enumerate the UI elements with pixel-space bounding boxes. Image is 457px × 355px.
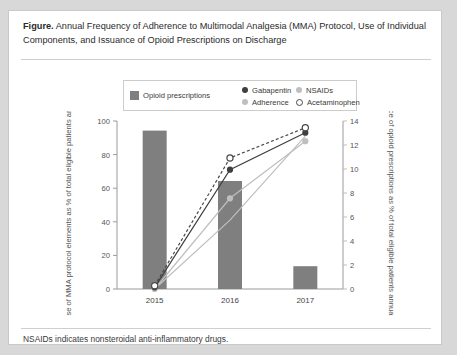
- x-tick-label: 2015: [146, 296, 164, 305]
- filled-dark-circle-icon: [242, 87, 248, 93]
- right-tick-label: 0: [350, 285, 354, 294]
- left-tick-label: 80: [102, 151, 110, 160]
- marker-adherence: [227, 195, 233, 201]
- chart-legend: Opioid prescriptions Gabapentin Adherenc…: [123, 80, 357, 111]
- legend-label: Opioid prescriptions: [143, 91, 210, 100]
- right-axis-title: Issuance of opioid prescriptions as % of…: [387, 111, 396, 316]
- left-tick-label: 0: [106, 285, 110, 294]
- marker-adherence: [302, 138, 308, 144]
- right-tick-label: 10: [350, 165, 358, 174]
- left-tick-label: 40: [102, 218, 110, 227]
- right-tick-label: 6: [350, 213, 354, 222]
- x-tick-label: 2016: [221, 296, 239, 305]
- left-tick-label: 60: [102, 184, 110, 193]
- left-tick-label: 20: [102, 251, 110, 260]
- chart-area: 02040608010002468101214Use of MMA protoc…: [9, 111, 443, 316]
- legend-item-acetaminophen: Acetaminophen: [296, 96, 360, 108]
- legend-item-adherence: Adherence: [242, 96, 291, 108]
- figure-footnote: NSAIDs indicates nonsteroidal anti-infla…: [23, 333, 431, 345]
- legend-item-opioid-prescriptions: Opioid prescriptions: [130, 89, 210, 101]
- legend-label: Gabapentin: [252, 86, 291, 95]
- dual-axis-chart: 02040608010002468101214Use of MMA protoc…: [9, 111, 443, 316]
- bar-2017: [293, 266, 317, 289]
- bar-swatch-icon: [130, 91, 139, 100]
- figure-caption-text: Annual Frequency of Adherence to Multimo…: [23, 21, 426, 45]
- figure-panel: Figure. Annual Frequency of Adherence to…: [8, 10, 442, 345]
- marker-acetaminophen: [227, 155, 233, 161]
- right-tick-label: 12: [350, 141, 358, 150]
- legend-item-gabapentin: Gabapentin: [242, 84, 291, 96]
- marker-gabapentin: [227, 167, 233, 173]
- right-tick-label: 4: [350, 237, 354, 246]
- right-tick-label: 14: [350, 117, 358, 126]
- marker-acetaminophen: [152, 283, 158, 289]
- legend-label: Acetaminophen: [307, 98, 360, 107]
- footnote-divider: [21, 328, 431, 329]
- caption-divider: [21, 59, 431, 60]
- legend-item-nsaids: NSAIDs: [296, 84, 360, 96]
- left-tick-label: 100: [97, 117, 110, 126]
- legend-label: Adherence: [252, 98, 289, 107]
- legend-label: NSAIDs: [306, 86, 333, 95]
- figure-caption: Figure. Annual Frequency of Adherence to…: [9, 19, 443, 47]
- bar-2015: [143, 131, 167, 289]
- open-circle-icon: [296, 99, 303, 106]
- filled-light-circle-icon: [296, 87, 302, 93]
- filled-light-circle-icon: [242, 99, 248, 105]
- x-tick-label: 2017: [296, 296, 314, 305]
- right-tick-label: 8: [350, 189, 354, 198]
- figure-label: Figure.: [23, 21, 54, 31]
- right-tick-label: 2: [350, 261, 354, 270]
- left-axis-title: Use of MMA protocol elements as % of tot…: [64, 111, 73, 316]
- marker-acetaminophen: [302, 125, 308, 131]
